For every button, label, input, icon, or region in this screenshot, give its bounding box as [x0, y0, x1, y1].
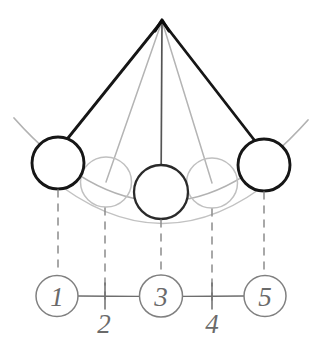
timeline-node-5-label: 5: [258, 282, 272, 312]
rod-position-5: [162, 21, 262, 150]
timeline-node-labels: 1 3 5: [50, 282, 272, 312]
timeline-node-1-label: 1: [50, 282, 64, 312]
pendulum-diagram-figure: 1 3 5 2 4: [0, 0, 321, 354]
timeline-segment-left: [78, 296, 140, 297]
rod-group-faint: [106, 21, 212, 183]
bob-position-4: [187, 158, 238, 208]
timeline-tick-4-label: 4: [205, 309, 219, 339]
timeline-tick-2-label: 2: [97, 309, 111, 339]
timeline-segment-right: [182, 296, 244, 297]
bob-position-1: [32, 137, 84, 189]
bob-position-3: [134, 165, 188, 219]
bob-position-5: [238, 139, 290, 191]
rod-position-1: [60, 21, 162, 148]
timeline-node-3-label: 3: [153, 282, 168, 312]
bob-position-2: [81, 157, 132, 207]
pendulum-diagram-canvas: 1 3 5 2 4: [0, 0, 321, 354]
